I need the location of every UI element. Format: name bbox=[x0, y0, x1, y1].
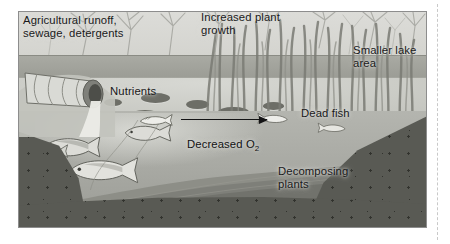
dead-fish-icon bbox=[312, 121, 353, 134]
page-margin-rule bbox=[437, 4, 438, 240]
label-decreased-oxygen: Decreased O2 bbox=[187, 125, 259, 156]
decreased-oxygen-arrow bbox=[181, 119, 267, 120]
label-decomposing-plants: Decomposing plants bbox=[278, 165, 348, 191]
eutrophication-illustration: Agricultural runoff, sewage, detergents … bbox=[18, 11, 427, 228]
label-dead-fish: Dead fish bbox=[301, 107, 350, 120]
label-smaller-lake-area: Smaller lake area bbox=[353, 44, 417, 70]
decreased-oxygen-text: Decreased O bbox=[187, 138, 255, 150]
figure-page: Agricultural runoff, sewage, detergents … bbox=[0, 0, 450, 244]
label-nutrients: Nutrients bbox=[110, 85, 156, 98]
decreased-oxygen-subscript: 2 bbox=[255, 144, 260, 153]
dead-fish-icon bbox=[251, 111, 296, 125]
label-increased-plant-growth: Increased plant growth bbox=[201, 11, 280, 37]
label-agricultural-runoff: Agricultural runoff, sewage, detergents bbox=[23, 14, 124, 40]
